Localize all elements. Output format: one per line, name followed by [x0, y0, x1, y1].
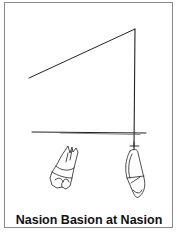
diagonal-line [29, 29, 135, 78]
figure-caption: Nasion Basion at Nasion [0, 213, 178, 227]
molar-tooth-icon [50, 146, 78, 189]
cephalometric-diagram [0, 0, 178, 239]
horizontal-line [32, 132, 146, 135]
incisor-tooth-icon [126, 149, 145, 197]
vertical-line [134, 29, 135, 147]
